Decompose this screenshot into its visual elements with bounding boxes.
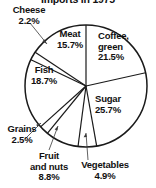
slice-label-grains-value: 2.5% <box>12 134 33 145</box>
slice-label-cheese: Cheese 2.2% <box>2 5 56 26</box>
slice-label-fish-value: 18.7% <box>31 75 57 86</box>
slice-label-grains-name: Grains <box>8 123 37 134</box>
pie-chart-figure: Imports in 1975 <box>0 0 156 188</box>
slice-label-meat-value: 15.7% <box>57 39 83 50</box>
leader-cheese <box>30 23 47 44</box>
slice-label-sugar-value: 25.7% <box>95 104 121 115</box>
slice-label-fish-name: Fish <box>35 64 54 75</box>
slice-label-coffee-value: 21.5% <box>98 51 124 62</box>
slice-label-vegetables: Vegetables 4.9% <box>74 160 136 181</box>
slice-label-coffee-name-2: green <box>98 41 123 52</box>
slice-label-vegetables-name: Vegetables <box>81 159 129 170</box>
slice-label-meat-name: Meat <box>60 28 81 39</box>
slice-label-sugar-name: Sugar <box>95 93 121 104</box>
slice-label-cheese-value: 2.2% <box>19 15 40 26</box>
slice-divider-coffee-sugar <box>86 73 146 86</box>
slice-label-meat: Meat 15.7% <box>48 29 92 50</box>
slice-label-fish: Fish 18.7% <box>22 65 66 86</box>
slice-label-cheese-name: Cheese <box>13 4 46 15</box>
slice-label-fruit-name-2: and nuts <box>30 161 68 172</box>
slice-label-fruit-name-1: Fruit <box>39 150 59 161</box>
slice-label-vegetables-value: 4.9% <box>95 170 116 181</box>
slice-label-fruit-and-nuts: Fruit and nuts 8.8% <box>22 151 76 183</box>
slice-label-grains: Grains 2.5% <box>0 124 46 145</box>
slice-label-fruit-value: 8.8% <box>39 171 60 182</box>
slice-divider-grains-fish <box>41 86 86 127</box>
slice-label-coffee: Coffee, green 21.5% <box>98 31 150 63</box>
slice-label-sugar: Sugar 25.7% <box>95 94 143 115</box>
slice-label-coffee-name-1: Coffee, <box>98 30 129 41</box>
